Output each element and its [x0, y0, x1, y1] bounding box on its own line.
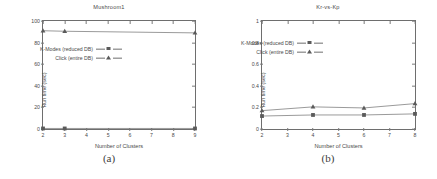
legend-key-square-icon — [96, 45, 122, 52]
legend-key-triangle-icon — [96, 54, 122, 61]
legend-key-triangle-icon — [297, 48, 323, 55]
data-point-triangle — [311, 104, 316, 108]
data-point-triangle — [62, 29, 67, 33]
x-axis-tick-label: 3 — [286, 132, 289, 138]
plot-area-b: Run time (sec) Number of Clusters 00.20.… — [261, 20, 416, 130]
x-axis-tick-label: 4 — [85, 132, 88, 138]
legend-b: K-Modes (reduced DB) Click (entire DB) — [241, 38, 323, 56]
x-axis-tick-label: 7 — [388, 132, 391, 138]
x-axis-tick-label: 5 — [107, 132, 110, 138]
x-axis-tick-label: 4 — [312, 132, 315, 138]
y-axis-tick-label: 20 — [34, 104, 40, 110]
legend-label: Click (entire DB) — [256, 49, 294, 55]
chart-title-b: Kr-vs-Kp — [219, 4, 437, 10]
legend-key-square-icon — [297, 39, 323, 46]
chart-panel-b: Kr-vs-Kp Run time (sec) Number of Cluste… — [219, 0, 437, 179]
y-axis-tick-label: 0 — [256, 126, 259, 132]
data-point-square — [193, 127, 197, 131]
data-point-triangle — [193, 30, 198, 34]
x-axis-tick-label: 5 — [337, 132, 340, 138]
data-series — [41, 28, 198, 34]
data-point-square — [260, 114, 264, 118]
series-line — [262, 114, 415, 116]
plot-area-a: Run time (sec) Number of Clusters 020406… — [42, 20, 196, 130]
x-axis-tick-label: 8 — [172, 132, 175, 138]
legend-label: K-Modes (reduced DB) — [40, 46, 93, 52]
legend-label: Click (entire DB) — [55, 55, 93, 61]
chart-title-a: Mushroom1 — [0, 4, 218, 10]
x-axis-tick-label: 9 — [194, 132, 197, 138]
y-axis-tick-label: 0.2 — [252, 104, 259, 110]
series-line — [262, 104, 415, 111]
x-axis-tick-label: 8 — [414, 132, 417, 138]
data-point-triangle — [413, 101, 418, 105]
x-axis-tick-label: 3 — [63, 132, 66, 138]
legend-item: Click (entire DB) — [40, 53, 122, 62]
x-axis-label-a: Number of Clusters — [43, 143, 195, 149]
x-axis-tick-label: 6 — [128, 132, 131, 138]
data-series — [260, 112, 417, 118]
x-axis-tick-label: 2 — [261, 132, 264, 138]
legend-a: K-Modes (reduced DB) Click (entire DB) — [40, 44, 122, 62]
data-series — [260, 101, 418, 112]
series-layer — [43, 21, 195, 129]
data-point-square — [311, 113, 315, 117]
legend-item: K-Modes (reduced DB) — [241, 38, 323, 47]
y-axis-tick-label: 0.4 — [252, 83, 259, 89]
data-point-square — [413, 112, 417, 116]
figure-container: Mushroom1 Run time (sec) Number of Clust… — [0, 0, 437, 179]
x-axis-tick-label: 7 — [150, 132, 153, 138]
y-axis-tick-label: 1 — [256, 18, 259, 24]
chart-panel-a: Mushroom1 Run time (sec) Number of Clust… — [0, 0, 218, 179]
y-axis-tick-label: 0.6 — [252, 61, 259, 67]
data-point-square — [63, 127, 67, 131]
data-point-triangle — [41, 28, 46, 32]
legend-item: Click (entire DB) — [241, 47, 323, 56]
y-axis-tick-label: 0 — [37, 126, 40, 132]
data-point-square — [362, 113, 366, 117]
x-axis-tick-label: 2 — [42, 132, 45, 138]
legend-label: K-Modes (reduced DB) — [241, 40, 294, 46]
y-axis-tick-label: 40 — [34, 83, 40, 89]
y-axis-tick-label: 60 — [34, 61, 40, 67]
x-axis-tick-label: 6 — [363, 132, 366, 138]
legend-item: K-Modes (reduced DB) — [40, 44, 122, 53]
data-point-square — [41, 127, 45, 131]
subfigure-caption-b: (b) — [219, 152, 437, 164]
subfigure-caption-a: (a) — [0, 152, 218, 164]
x-axis-label-b: Number of Clusters — [262, 143, 415, 149]
y-axis-tick-label: 100 — [31, 18, 40, 24]
